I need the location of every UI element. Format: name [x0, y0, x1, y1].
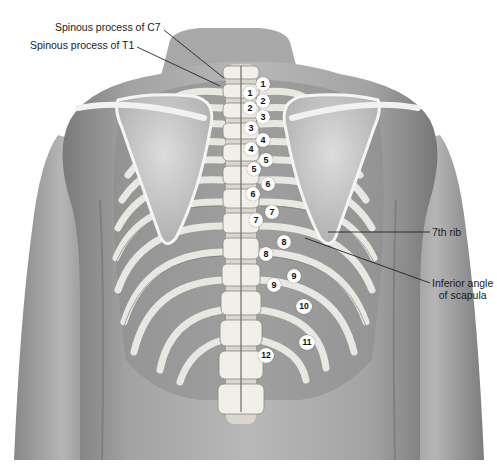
rib-marker-1: 1 [256, 77, 270, 91]
vertebra-marker-8: 8 [259, 247, 273, 261]
label-inferior-angle-line1: Inferior angle [432, 277, 493, 289]
vertebra-marker-4: 4 [244, 142, 258, 156]
anatomy-figure: Spinous process of C7 Spinous process of… [0, 0, 497, 473]
vertebra-marker-9: 9 [267, 278, 281, 292]
rib-marker-7: 7 [265, 205, 279, 219]
rib-marker-6: 6 [261, 177, 275, 191]
label-spinous-process-c7: Spinous process of C7 [55, 21, 161, 33]
label-inferior-angle-line2: of scapula [432, 289, 493, 301]
vertebra-marker-7: 7 [249, 213, 263, 227]
thorax-illustration [0, 0, 497, 473]
rib-marker-8: 8 [277, 235, 291, 249]
vertebra-marker-6: 6 [246, 187, 260, 201]
label-7th-rib: 7th rib [432, 226, 461, 238]
rib-marker-2: 2 [256, 94, 270, 108]
rib-marker-10: 10 [296, 299, 312, 314]
rib-marker-9: 9 [287, 269, 301, 283]
rib-marker-4: 4 [256, 133, 270, 147]
vertebra-marker-3: 3 [244, 121, 258, 135]
vertebra-marker-1: 1 [243, 86, 257, 100]
rib-marker-5: 5 [259, 153, 273, 167]
label-spinous-process-t1: Spinous process of T1 [30, 39, 134, 51]
rib-marker-11: 11 [299, 335, 315, 350]
label-inferior-angle-scapula: Inferior angle of scapula [432, 277, 493, 301]
vertebra-marker-5: 5 [247, 162, 261, 176]
rib-marker-12: 12 [258, 348, 274, 363]
vertebra-marker-2: 2 [243, 101, 257, 115]
rib-marker-3: 3 [256, 110, 270, 124]
